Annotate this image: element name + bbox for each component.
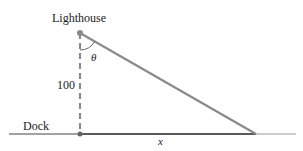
lighthouse-point [77,30,83,36]
dock-point [78,132,83,137]
lighthouse-dock-diagram: Lighthouse 100 Dock θ x [0,0,303,151]
theta-angle-arc [80,42,95,51]
dock-label: Dock [23,120,49,132]
lighthouse-label: Lighthouse [52,12,106,24]
height-label: 100 [57,79,75,91]
angle-theta-label: θ [91,52,96,63]
distance-x-label: x [158,136,163,147]
hypotenuse-line [80,33,256,134]
